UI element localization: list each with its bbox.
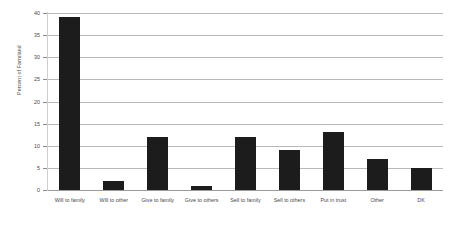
y-tick-label: 40 (14, 10, 40, 16)
y-axis-tick-labels: 0510152025303540 (10, 0, 40, 228)
x-tick-label: Give to others (180, 196, 224, 204)
bar (103, 181, 124, 190)
x-tick-label: Other (355, 196, 399, 204)
bar (147, 137, 168, 190)
x-tick-label: Will to family (48, 196, 92, 204)
bar (279, 150, 300, 190)
y-tick-mark (43, 57, 47, 58)
y-tick-mark (43, 146, 47, 147)
bar (235, 137, 256, 190)
y-tick-mark (43, 79, 47, 80)
y-tick-mark (43, 35, 47, 36)
gridline (48, 79, 443, 80)
x-tick-label: Will to other (92, 196, 136, 204)
gridline (48, 35, 443, 36)
bar (411, 168, 432, 190)
y-tick-label: 35 (14, 32, 40, 38)
bar (323, 132, 344, 190)
gridline (48, 57, 443, 58)
y-tick-mark (43, 124, 47, 125)
bar (191, 186, 212, 190)
gridline (48, 13, 443, 14)
x-axis-baseline (48, 190, 443, 191)
y-tick-label: 5 (14, 165, 40, 171)
bar (59, 17, 80, 190)
plot-area (48, 13, 443, 190)
x-tick-label: Sell to family (224, 196, 268, 204)
y-tick-mark (43, 102, 47, 103)
bar-chart: Percent of Farmland 0510152025303540 Wil… (0, 0, 456, 228)
y-tick-label: 15 (14, 121, 40, 127)
bar (367, 159, 388, 190)
y-tick-label: 20 (14, 99, 40, 105)
x-tick-label: Give to family (136, 196, 180, 204)
y-tick-label: 0 (14, 187, 40, 193)
y-tick-mark (43, 168, 47, 169)
y-tick-mark (43, 13, 47, 14)
y-tick-label: 10 (14, 143, 40, 149)
x-tick-label: Put in trust (311, 196, 355, 204)
gridline (48, 124, 443, 125)
x-tick-label: DK (399, 196, 443, 204)
gridline (48, 102, 443, 103)
y-tick-label: 25 (14, 76, 40, 82)
y-tick-label: 30 (14, 54, 40, 60)
y-tick-mark (43, 190, 47, 191)
x-tick-label: Sell to others (267, 196, 311, 204)
x-axis-tick-labels: Will to familyWill to otherGive to famil… (48, 196, 443, 210)
